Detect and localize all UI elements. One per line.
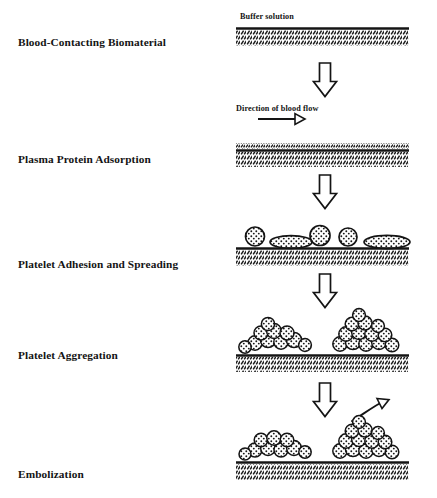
- stage-5-graphic: [236, 416, 409, 480]
- process-arrow-1: [314, 63, 337, 97]
- blood-material-interaction-figure: Blood-Contacting Biomaterial Plasma Prot…: [0, 0, 437, 498]
- stage-label-blood-contacting-biomaterial: Blood-Contacting Biomaterial: [18, 36, 223, 49]
- adsorbed-protein-layer: [236, 143, 409, 149]
- process-arrow-3: [314, 274, 337, 308]
- stage-label-platelet-aggregation: Platelet Aggregation: [18, 349, 223, 362]
- platelet-aggregate: [239, 431, 311, 460]
- stage-3-graphic: [236, 226, 410, 267]
- biomaterial-substrate-stage-3: [236, 250, 409, 266]
- process-arrow-4: [314, 383, 337, 417]
- stage-2-graphic: [236, 143, 409, 167]
- caption-direction-of-blood-flow: Direction of blood flow: [236, 104, 318, 113]
- caption-buffer-solution: Buffer solution: [240, 12, 294, 21]
- spread-platelet: [364, 235, 410, 248]
- stage-label-platelet-adhesion-and-spreading: Platelet Adhesion and Spreading: [18, 258, 223, 271]
- embolizing-aggregate: [333, 416, 399, 459]
- round-platelet: [310, 226, 330, 246]
- stage-label-embolization: Embolization: [18, 468, 223, 481]
- biomaterial-substrate-stage-5: [236, 464, 409, 480]
- stage-label-plasma-protein-adsorption: Plasma Protein Adsorption: [18, 153, 223, 166]
- stage-4-graphic: [236, 309, 409, 372]
- spread-platelet: [270, 236, 312, 249]
- biomaterial-substrate-stage-4: [236, 357, 409, 372]
- figure-graphics-layer: [0, 0, 437, 498]
- stage-1-graphic: [236, 29, 409, 47]
- platelet-aggregate: [333, 309, 399, 352]
- round-platelet: [339, 228, 357, 246]
- round-platelet: [246, 227, 265, 246]
- process-arrow-2: [314, 175, 337, 209]
- biomaterial-substrate-stage-1: [236, 30, 409, 46]
- biomaterial-substrate-stage-2: [236, 152, 409, 167]
- platelet-aggregate: [239, 317, 312, 353]
- blood-flow-arrow: [258, 114, 305, 125]
